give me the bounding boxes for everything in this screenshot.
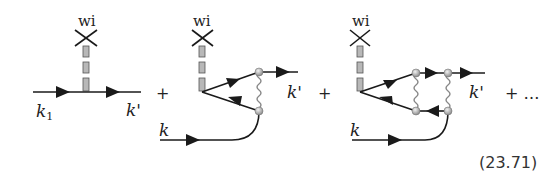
diagram-1: wi k1 k' [33,12,141,123]
arrow-icon [56,86,70,98]
in-momentum-label: k [159,120,169,140]
diagram-2: + wi k' k [156,12,302,146]
feynman-diagram-series: wi k1 k' + wi [0,0,556,186]
wavy-line [446,73,450,111]
arrow-icon [106,86,120,98]
arrow-icon [460,67,473,79]
arrow-icon [388,134,402,146]
source-label: wi [78,12,96,30]
vertex-dot [412,69,420,77]
arrow-icon [426,105,439,117]
wavy-line [257,72,261,111]
arrow-icon [186,134,200,146]
ellipsis-term: + … [505,84,540,103]
plus-sign: + [156,84,169,103]
out-momentum-label: k' [287,82,302,102]
source-cross-icon [192,30,213,46]
plus-sign: + [318,84,331,103]
interaction-boxes [83,46,89,91]
vertex-dot [444,107,452,115]
out-momentum-label: k' [126,100,141,120]
vertex-dot [412,107,420,115]
source-label: wi [352,12,370,30]
out-momentum-label: k' [469,82,484,102]
in-momentum-label: k [350,120,360,140]
interaction-boxes [357,46,363,91]
source-cross-icon [75,30,97,46]
source-label: wi [193,12,211,30]
equation-number: (23.71) [479,153,537,172]
arrow-icon [226,78,240,88]
arrow-icon [425,67,438,79]
vertex-dot [255,68,263,76]
arrow-icon [379,96,393,105]
vertex-dot [444,69,452,77]
wavy-line [414,73,418,111]
source-cross-icon [350,30,370,46]
arrow-icon [276,66,290,78]
vertex-dot [255,107,263,115]
interaction-boxes [199,46,205,91]
diagram-3: + wi k' k [318,12,485,146]
in-momentum-label: k1 [36,101,53,123]
arrow-icon [383,80,397,89]
